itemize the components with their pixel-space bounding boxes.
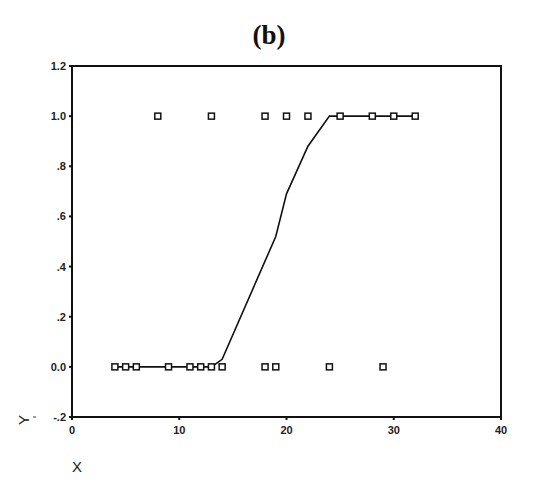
data-point-marker bbox=[133, 364, 139, 370]
data-point-marker bbox=[273, 364, 279, 370]
data-point-marker bbox=[391, 113, 397, 119]
y-axis-label: Y bbox=[15, 415, 32, 425]
data-point-marker bbox=[305, 113, 311, 119]
x-tick-label: 0 bbox=[69, 424, 75, 436]
data-point-marker bbox=[337, 113, 343, 119]
data-point-marker bbox=[208, 364, 214, 370]
data-point-marker bbox=[198, 364, 204, 370]
x-tick-label: 40 bbox=[495, 424, 507, 436]
y-tick-label: 0.0 bbox=[51, 361, 66, 373]
data-point-marker bbox=[262, 364, 268, 370]
y-tick-label: .8 bbox=[57, 160, 66, 172]
data-point-marker bbox=[155, 113, 161, 119]
y-tick-label: .2 bbox=[57, 311, 66, 323]
y-axis: 1.21.0.8.6.4.20.0-.2 bbox=[33, 60, 72, 423]
y-tick-label: 1.0 bbox=[51, 110, 66, 122]
fitted-curve bbox=[115, 116, 415, 367]
data-point-marker bbox=[412, 113, 418, 119]
data-points bbox=[112, 113, 418, 370]
y-tick-label: 1.2 bbox=[51, 60, 66, 72]
x-tick-label: 20 bbox=[280, 424, 292, 436]
y-tick-label: .4 bbox=[57, 261, 67, 273]
x-tick-label: 30 bbox=[388, 424, 400, 436]
data-point-marker bbox=[208, 113, 214, 119]
data-point-marker bbox=[369, 113, 375, 119]
y-tick-label: .6 bbox=[57, 210, 66, 222]
x-axis-label: X bbox=[72, 458, 82, 475]
data-point-marker bbox=[284, 113, 290, 119]
data-point-marker bbox=[123, 364, 129, 370]
data-point-marker bbox=[219, 364, 225, 370]
data-point-marker bbox=[112, 364, 118, 370]
scatter-chart: 1.21.0.8.6.4.20.0-.2 010203040 Y X bbox=[0, 0, 538, 501]
x-tick-label: 10 bbox=[173, 424, 185, 436]
data-point-marker bbox=[166, 364, 172, 370]
data-point-marker bbox=[262, 113, 268, 119]
x-axis: 010203040 bbox=[69, 417, 507, 436]
data-point-marker bbox=[187, 364, 193, 370]
data-point-marker bbox=[326, 364, 332, 370]
data-point-marker bbox=[380, 364, 386, 370]
y-tick-label: -.2 bbox=[53, 411, 66, 423]
